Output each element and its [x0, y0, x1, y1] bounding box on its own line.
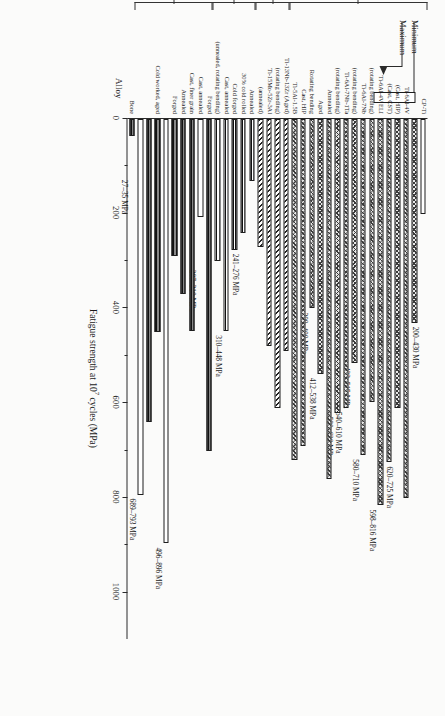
family-brace-nub — [173, 0, 174, 4]
axis-tick-label: 0 — [110, 116, 120, 120]
bar-rot-bending-3 — [334, 119, 339, 413]
bar-value-label: 496–896 MPa — [153, 547, 162, 589]
bar-bone — [129, 119, 134, 136]
bar-ti6al4v-eli — [377, 119, 382, 505]
axis-tick-minor — [124, 165, 127, 166]
bar-value-label: 689–793 MPa — [127, 499, 136, 541]
bar-value-label: 540–610 MPa — [333, 412, 342, 454]
family-brace-nub — [357, 0, 358, 4]
bar-ss-cold-forged — [232, 119, 237, 250]
bar-cast-hip — [394, 119, 399, 408]
bar-co-cw-aged-2 — [146, 119, 151, 422]
bar-value-label: 580–710 MPa — [350, 459, 359, 501]
axis-tick-label: 600 — [110, 395, 120, 408]
bar-rot-bending-4 — [309, 119, 314, 308]
bar-co-cw-aged-open — [163, 119, 168, 543]
axis-tick-minor — [124, 355, 127, 356]
bar-ss-rot-bending — [214, 119, 219, 261]
bar-ti6al4v — [403, 119, 408, 498]
bar-value-label: 598–816 MPa — [367, 509, 376, 551]
bar-ti6al7nb-1ta — [343, 119, 348, 408]
figure-page: Minimum Maximum Alloy 200–430 MPa620–725… — [0, 0, 445, 716]
axis-tick-label: 400 — [110, 301, 120, 314]
bar-ti13nb13zr — [283, 119, 288, 351]
bar-value-label: 412–538 MPa — [307, 378, 316, 420]
axis-title-x-main: Fatigue strength at 10 — [88, 309, 98, 392]
bar-value-label: 241–276 MPa — [230, 254, 239, 296]
bar-ss-cast-annealed — [223, 119, 228, 331]
axis-tick-minor — [124, 544, 127, 545]
bar-annealed-1 — [326, 119, 331, 479]
axis-tick — [122, 118, 127, 119]
bar-rot-bending-1 — [369, 119, 374, 402]
bar-cp-ti-min — [420, 119, 425, 214]
axis-tick-minor — [124, 260, 127, 261]
bar-ti15mo5zr3al — [266, 119, 271, 346]
axis-title-x-tail: cycles (MPa) — [88, 395, 98, 448]
bar-value-label: 620–725 MPa — [384, 466, 393, 508]
axis-tick-minor — [124, 450, 127, 451]
axis-title-x: Fatigue strength at 107 cycles (MPa) — [88, 118, 100, 639]
bar-co-cast-annealed — [197, 119, 202, 217]
axis-title-y: Alloy — [113, 78, 123, 99]
bar-value-label: 310–448 MPa — [213, 335, 222, 377]
family-brace-nub — [272, 0, 273, 4]
bar-ti5al15b — [292, 119, 297, 460]
axis-tick-label: 800 — [110, 490, 120, 503]
chart-stage: Minimum Maximum Alloy 200–430 MPa620–725… — [0, 0, 445, 716]
family-brace-nub — [233, 0, 234, 4]
bar-cast-cst — [386, 119, 391, 462]
plot-area: 200–430 MPa620–725 MPa598–816 MPa580–710… — [127, 118, 427, 678]
bar-value-label: 200–430 MPa — [410, 327, 419, 369]
axis-tick — [122, 213, 127, 214]
axis-tick — [122, 307, 127, 308]
bar-co-ni-cr-mo-open — [137, 119, 142, 495]
bar-cast-hip-2 — [300, 119, 305, 446]
bar-ss-annealed — [249, 119, 254, 181]
bar-co-annealed — [180, 119, 185, 294]
bar-tmzf — [274, 119, 279, 408]
bar-ti353nb — [257, 119, 262, 247]
bar-co-cw-aged — [154, 119, 159, 332]
family-braces: α + ββStainless steelCo type alloy — [127, 0, 427, 118]
bar-aged-1 — [317, 119, 322, 374]
axis-tick-label: 200 — [110, 206, 120, 219]
axis-tick — [122, 592, 127, 593]
axis-tick-label: 1000 — [110, 583, 120, 601]
bar-ti6al7nb — [360, 119, 365, 455]
bar-cp-ti-max — [412, 119, 417, 323]
bar-co-forged-2 — [172, 119, 177, 256]
axis-tick — [122, 402, 127, 403]
bar-rot-bending-2 — [352, 119, 357, 363]
bar-ss-cold-rolled — [240, 119, 245, 233]
bar-co-forged — [206, 119, 211, 451]
bar-co-cast-finer-grain — [189, 119, 194, 331]
axis-tick — [122, 497, 127, 498]
